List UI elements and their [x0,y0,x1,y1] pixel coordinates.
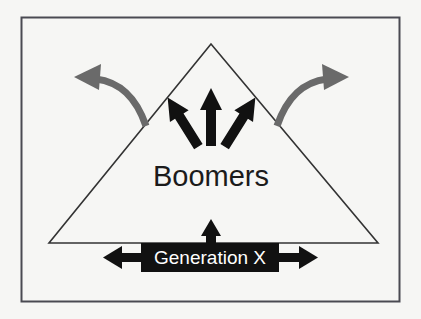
diagram-canvas: Boomers Generation X [0,0,421,319]
triangle-label: Boomers [153,160,269,192]
banner-label: Generation X [154,247,266,268]
diagram-svg: Boomers Generation X [0,0,421,319]
